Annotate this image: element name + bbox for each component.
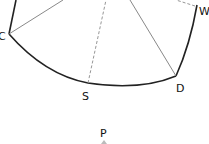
label-w: W	[199, 5, 209, 18]
label-s: S	[82, 90, 89, 103]
arc-c-s-d	[9, 34, 176, 86]
ray-d	[130, 0, 176, 76]
dashed-s	[88, 0, 106, 83]
point-p-marker	[101, 140, 107, 144]
edge-c-top	[9, 0, 16, 34]
label-p: P	[100, 127, 107, 140]
ray-c	[9, 0, 63, 34]
geometry-diagram: C S D W P	[0, 0, 209, 144]
label-d: D	[176, 82, 184, 95]
label-c: C	[0, 30, 6, 43]
edge-d-w	[176, 5, 197, 76]
dashed-w	[176, 0, 195, 6]
